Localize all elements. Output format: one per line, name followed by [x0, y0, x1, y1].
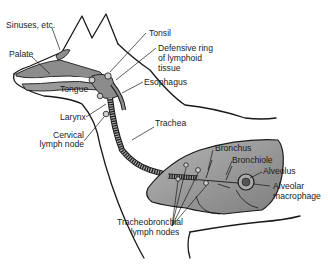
label-alveolar-macrophage-line1: Alveolar — [273, 181, 304, 191]
label-alveolus: Alveolus — [263, 166, 295, 176]
respiratory-diagram: Sinuses, etc. Palate Tongue Larynx Cervi… — [0, 0, 328, 273]
label-tracheobronchial-line2: lymph nodes — [110, 227, 200, 237]
label-bronchus: Bronchus — [215, 143, 251, 153]
label-alveolar-macrophage-line2: macrophage — [273, 191, 321, 201]
label-cervical-line2: lymph node — [30, 139, 84, 149]
label-defensive-ring-line3: tissue — [158, 63, 180, 73]
label-defensive-ring-line1: Defensive ring — [158, 43, 213, 53]
label-larynx: Larynx — [60, 112, 86, 122]
label-esophagus: Esophagus — [144, 77, 187, 87]
label-tonsil: Tonsil — [149, 28, 171, 38]
label-trachea: Trachea — [155, 118, 186, 128]
label-tracheobronchial-line1: Tracheobronchial — [100, 217, 200, 227]
label-sinuses: Sinuses, etc. — [6, 20, 55, 30]
label-defensive-ring-line2: of lymphoid — [158, 53, 202, 63]
label-tongue: Tongue — [60, 84, 88, 94]
label-palate: Palate — [9, 49, 33, 59]
label-bronchiole: Bronchiole — [232, 155, 273, 165]
